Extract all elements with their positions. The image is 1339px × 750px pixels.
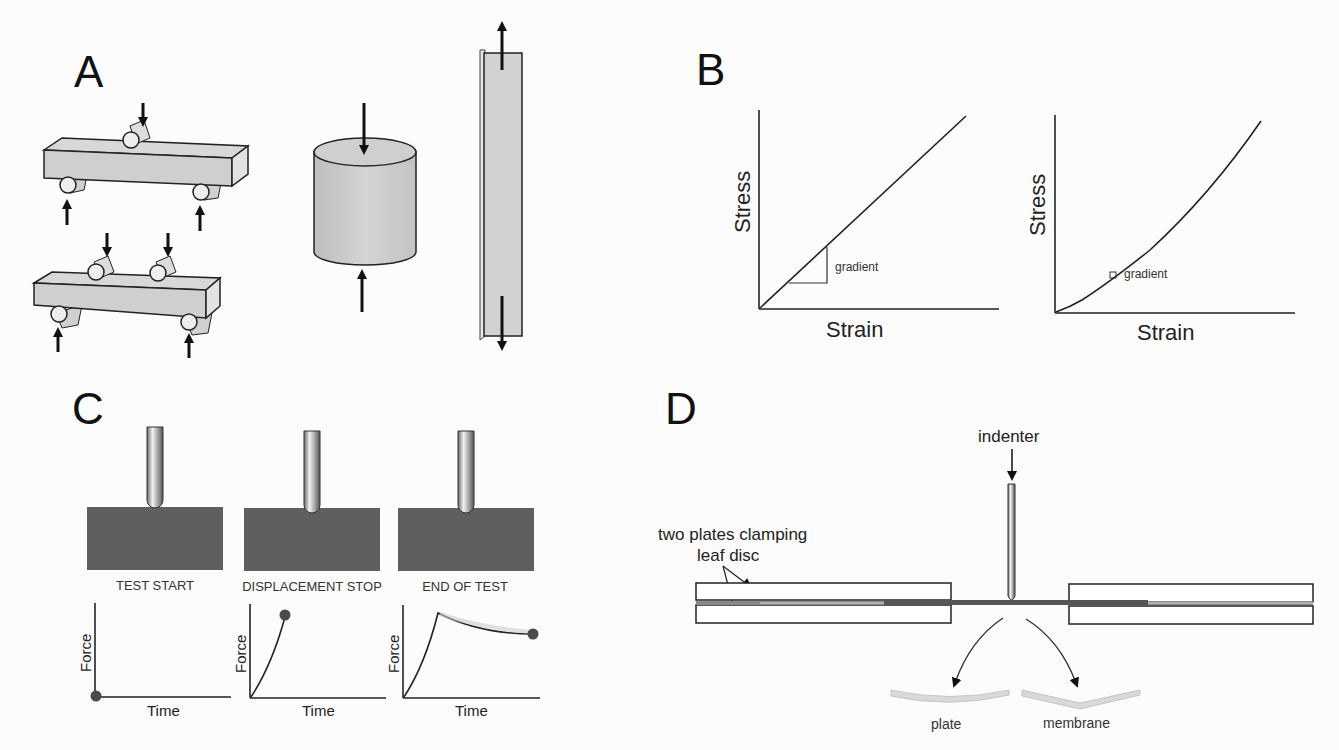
y-axis-label: Stress: [730, 171, 755, 233]
panel-d: D indenter two plates clamping leaf disc…: [658, 384, 1313, 732]
data-point-marker: [528, 629, 539, 640]
indenter-label: indenter: [978, 427, 1040, 446]
four-point-bending-beam: [34, 233, 220, 358]
panel-label-a: A: [74, 47, 104, 96]
y-axis-label: Force: [232, 635, 249, 673]
plate-shape: [891, 690, 1009, 702]
panel-c: C TEST START DISPLACEMENT STOP END OF TE…: [72, 384, 540, 719]
indenter-probe-icon: [1008, 484, 1015, 600]
y-axis-label: Force: [385, 635, 402, 673]
stage-caption: END OF TEST: [422, 579, 508, 594]
upper-clamp-plate-left: [696, 583, 951, 600]
gradient-triangle-icon: [789, 247, 827, 283]
clamp-label-line1: two plates clamping: [658, 525, 807, 544]
membrane-shape: [1022, 690, 1140, 709]
sample-block: [398, 508, 534, 571]
data-point-marker: [280, 610, 291, 621]
force-time-chart-start: Time Force: [77, 603, 231, 719]
stage-caption: DISPLACEMENT STOP: [242, 579, 382, 594]
linear-curve: [760, 116, 966, 308]
lower-clamp-plate-left: [696, 605, 951, 623]
x-axis-label: Strain: [826, 317, 883, 342]
probe-icon: [147, 427, 163, 508]
membrane-arrow-icon: [1026, 619, 1076, 683]
stress-strain-nonlinear-chart: gradient Strain Stress: [1025, 115, 1295, 345]
plate-label: plate: [931, 716, 962, 732]
tension-strip: [480, 26, 522, 346]
panel-label-d: D: [665, 384, 697, 433]
stress-strain-linear-chart: gradient Strain Stress: [730, 110, 999, 342]
y-axis-label: Stress: [1025, 174, 1050, 236]
x-axis-label: Strain: [1137, 320, 1194, 345]
panel-label-c: C: [72, 384, 104, 433]
x-axis-label: Time: [302, 702, 335, 719]
clamp-label-line2: leaf disc: [697, 546, 760, 565]
upper-clamp-plate-right: [1069, 584, 1313, 602]
gradient-label: gradient: [835, 260, 879, 274]
figure-canvas: A: [0, 0, 1339, 750]
force-time-chart-displacement: Time Force: [232, 604, 386, 719]
y-axis-label: Force: [77, 634, 94, 672]
membrane-label: membrane: [1043, 715, 1110, 731]
compression-cylinder: [314, 103, 416, 312]
plate-arrow-icon: [955, 618, 1003, 683]
stage-end-of-test: END OF TEST: [398, 431, 534, 594]
nonlinear-curve: [1056, 121, 1261, 312]
panel-label-b: B: [696, 45, 725, 94]
lower-clamp-plate-right: [1069, 606, 1313, 624]
sample-block: [244, 508, 380, 571]
force-time-chart-end: Time Force: [385, 605, 540, 719]
three-point-bending-beam: [44, 103, 248, 231]
sample-block: [87, 507, 223, 570]
x-axis-label: Time: [455, 702, 488, 719]
data-point-marker: [91, 691, 102, 702]
probe-icon: [458, 431, 474, 513]
panel-b: B gradient Strain Stress gradient Strain…: [696, 45, 1295, 345]
stage-test-start: TEST START: [87, 427, 223, 593]
probe-icon: [304, 431, 320, 513]
stage-displacement-stop: DISPLACEMENT STOP: [242, 431, 382, 594]
panel-a: A: [34, 26, 522, 358]
gradient-label: gradient: [1124, 267, 1168, 281]
leaf-disc-exposed: [884, 600, 1148, 605]
stage-caption: TEST START: [116, 578, 194, 593]
x-axis-label: Time: [147, 702, 180, 719]
